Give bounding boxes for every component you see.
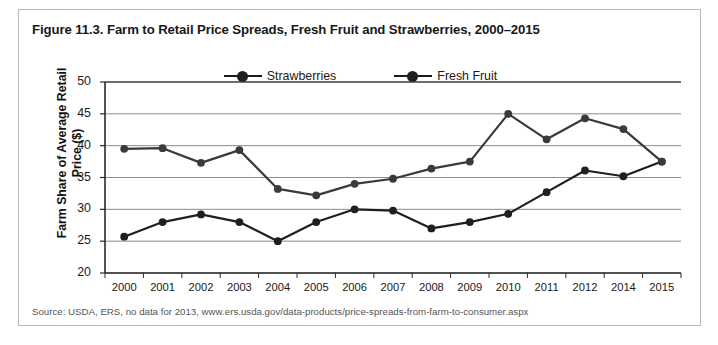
data-point: [389, 207, 397, 215]
data-point: [620, 172, 628, 180]
series-line-fresh-fruit: [124, 114, 662, 196]
data-point: [504, 210, 512, 218]
data-point: [466, 158, 474, 166]
y-axis-tick-label: 25: [63, 233, 91, 247]
chart-svg: [19, 10, 702, 327]
data-point: [274, 237, 282, 245]
data-point: [428, 225, 436, 233]
plot-area: 2025303540455020002001200220032004200520…: [19, 10, 702, 327]
data-point: [312, 191, 320, 199]
data-point: [312, 218, 320, 226]
data-point: [620, 125, 628, 133]
data-point: [197, 159, 205, 167]
data-point: [159, 144, 167, 152]
data-point: [120, 233, 128, 241]
data-point: [543, 188, 551, 196]
data-point: [159, 218, 167, 226]
data-point: [274, 185, 282, 193]
figure-card: Figure 11.3. Farm to Retail Price Spread…: [18, 9, 701, 326]
data-point: [236, 218, 244, 226]
y-axis-tick-label: 50: [63, 74, 91, 88]
source-note: Source: USDA, ERS, no data for 2013, www…: [32, 306, 528, 317]
data-point: [466, 218, 474, 226]
y-axis-tick-label: 35: [63, 170, 91, 184]
series-line-strawberries: [124, 162, 662, 242]
data-point: [543, 135, 551, 143]
data-point: [236, 146, 244, 154]
data-point: [351, 180, 359, 188]
data-point: [428, 165, 436, 173]
x-axis-tick-label: 2015: [639, 281, 685, 293]
data-point: [581, 167, 589, 175]
data-point: [581, 114, 589, 122]
y-axis-tick-label: 30: [63, 201, 91, 215]
data-point: [504, 110, 512, 118]
data-point: [658, 158, 666, 166]
data-point: [351, 205, 359, 213]
data-point: [197, 211, 205, 219]
y-axis-tick-label: 40: [63, 138, 91, 152]
data-point: [120, 145, 128, 153]
data-point: [389, 175, 397, 183]
y-axis-tick-label: 20: [63, 265, 91, 279]
y-axis-tick-label: 45: [63, 106, 91, 120]
